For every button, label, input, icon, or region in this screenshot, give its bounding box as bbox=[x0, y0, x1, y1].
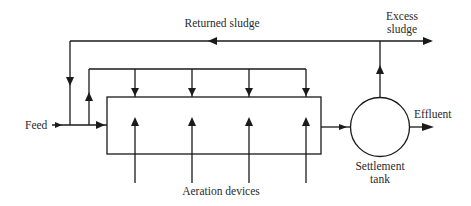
excess-sludge-label-2: sludge bbox=[387, 23, 417, 36]
effluent-label: Effluent bbox=[414, 108, 452, 120]
settlement-label-2: tank bbox=[370, 173, 390, 185]
aeration-devices-label: Aeration devices bbox=[182, 185, 260, 197]
tank-to-settlement-arrow-icon bbox=[339, 124, 347, 130]
returned-sludge-label: Returned sludge bbox=[184, 17, 259, 30]
aeration-arrow-icon bbox=[302, 117, 310, 126]
step-feed-arrow-icon bbox=[188, 88, 196, 96]
returned-sludge-arrow-icon bbox=[208, 37, 217, 45]
excess-sludge-label-1: Excess bbox=[386, 10, 418, 22]
step-feed-arrow-icon bbox=[245, 88, 253, 96]
feed-arrow-icon bbox=[55, 122, 62, 128]
step-feed-up-arrow-icon bbox=[85, 92, 93, 101]
aeration-arrow-icon bbox=[245, 117, 253, 126]
sludge-riser-arrow-icon bbox=[376, 65, 384, 74]
return-down-arrow-icon bbox=[66, 77, 74, 86]
feed-label: Feed bbox=[25, 119, 48, 131]
step-feed-arrow-icon bbox=[302, 88, 310, 96]
activated-sludge-diagram: Returned sludge Excess sludge Feed Efflu… bbox=[0, 0, 471, 206]
excess-sludge-arrow-icon bbox=[423, 37, 433, 45]
aeration-arrow-icon bbox=[188, 117, 196, 126]
aeration-arrow-icon bbox=[131, 117, 139, 126]
settlement-label-1: Settlement bbox=[355, 160, 405, 172]
settlement-tank bbox=[351, 98, 410, 157]
feed-into-tank-arrow-icon bbox=[96, 121, 105, 129]
effluent-arrow-icon bbox=[422, 123, 434, 131]
step-feed-arrow-icon bbox=[131, 88, 139, 96]
aeration-tank bbox=[107, 97, 321, 154]
